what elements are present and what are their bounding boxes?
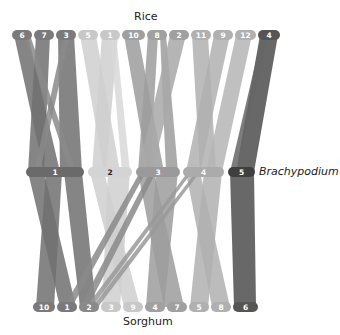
sorghum-chromosome-bar: 10123947586 bbox=[33, 302, 258, 312]
rice-chromosome-label: 9 bbox=[220, 31, 225, 40]
brachypodium-chromosome-label: 4 bbox=[201, 168, 206, 177]
rice-chromosome-label: 3 bbox=[63, 31, 68, 40]
rice-chromosome-label: 11 bbox=[196, 31, 206, 40]
rice-chromosome-label: 1 bbox=[107, 31, 112, 40]
synteny-diagram: 673511082119124 12345 10123947586 bbox=[0, 0, 340, 335]
sorghum-chromosome-label: 2 bbox=[86, 303, 91, 312]
sorghum-chromosome-label: 8 bbox=[218, 303, 223, 312]
brachypodium-chromosome-label: 3 bbox=[155, 168, 160, 177]
sorghum-chromosome-label: 1 bbox=[64, 303, 69, 312]
rice-chromosome-label: 6 bbox=[19, 31, 24, 40]
brachypodium-chromosome-label: 5 bbox=[239, 168, 244, 177]
rice-chromosome-label: 8 bbox=[154, 31, 159, 40]
sorghum-chromosome-label: 5 bbox=[196, 303, 201, 312]
sorghum-chromosome-label: 6 bbox=[243, 303, 248, 312]
rice-chromosome-label: 4 bbox=[266, 31, 271, 40]
rice-chromosome-label: 7 bbox=[41, 31, 46, 40]
synteny-ribbon bbox=[230, 172, 256, 307]
rice-brachypodium-ribbons bbox=[14, 35, 278, 172]
brachypodium-chromosome-label: 2 bbox=[107, 168, 112, 177]
sorghum-chromosome-label: 10 bbox=[39, 303, 49, 312]
brachypodium-sorghum-ribbons bbox=[28, 172, 256, 307]
sorghum-chromosome-label: 7 bbox=[174, 303, 179, 312]
sorghum-chromosome-label: 3 bbox=[108, 303, 113, 312]
rice-chromosome-bar: 673511082119124 bbox=[12, 30, 280, 40]
sorghum-chromosome-label: 4 bbox=[152, 303, 157, 312]
brachypodium-chromosome-label: 1 bbox=[52, 168, 57, 177]
sorghum-chromosome-label: 9 bbox=[130, 303, 135, 312]
rice-chromosome-label: 10 bbox=[128, 31, 138, 40]
brachypodium-chromosome-bar: 12345 bbox=[26, 167, 255, 177]
rice-chromosome-label: 2 bbox=[176, 31, 181, 40]
rice-chromosome-label: 12 bbox=[240, 31, 250, 40]
rice-chromosome-label: 5 bbox=[85, 31, 90, 40]
